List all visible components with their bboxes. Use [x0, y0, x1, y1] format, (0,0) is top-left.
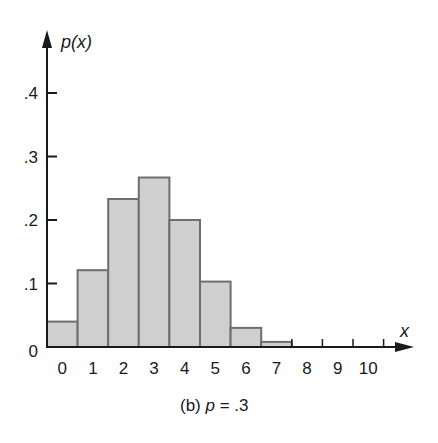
x-tick-label: 1 — [88, 359, 97, 378]
caption-rest: = .3 — [215, 396, 249, 415]
x-tick-label: 10 — [359, 359, 378, 378]
x-tick-label: 0 — [58, 359, 67, 378]
y-ticks: 0.1.2.3.4 — [24, 84, 57, 361]
y-axis-label: p(x) — [60, 32, 92, 52]
y-tick-label: .1 — [24, 275, 38, 294]
bar-3 — [139, 178, 170, 348]
y-tick-label: 0 — [29, 342, 38, 361]
x-axis-arrow-icon — [395, 342, 414, 352]
bar-5 — [200, 282, 231, 347]
x-tick-label: 2 — [119, 359, 128, 378]
caption-prefix: (b) — [180, 396, 206, 415]
bar-0 — [47, 322, 78, 347]
chart-caption: (b) p = .3 — [180, 396, 249, 415]
y-tick-label: .4 — [24, 84, 38, 103]
x-axis-label: x — [399, 321, 410, 341]
x-tick-label: 6 — [241, 359, 250, 378]
y-tick-label: .2 — [24, 211, 38, 230]
y-axis-arrow-icon — [42, 30, 52, 48]
bar-1 — [78, 270, 109, 347]
bars — [47, 178, 292, 348]
x-tick-label: 8 — [302, 359, 311, 378]
x-tick-label: 7 — [272, 359, 281, 378]
x-tick-label: 9 — [333, 359, 342, 378]
bar-4 — [169, 220, 200, 347]
caption-variable: p — [205, 396, 215, 415]
y-tick-label: .3 — [24, 148, 38, 167]
x-tick-label: 4 — [180, 359, 189, 378]
bar-6 — [231, 328, 262, 347]
bar-2 — [108, 199, 139, 347]
binomial-bar-chart: 0.1.2.3.4 012345678910 p(x) x (b) p = .3 — [0, 0, 438, 443]
x-tick-label: 5 — [211, 359, 220, 378]
x-tick-label: 3 — [149, 359, 158, 378]
